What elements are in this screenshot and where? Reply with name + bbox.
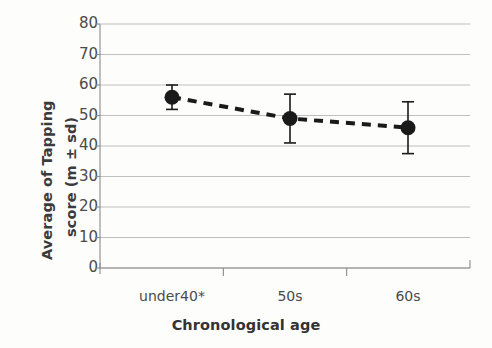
x-tick-label: under40*	[112, 288, 232, 304]
data-point-marker[interactable]	[165, 90, 180, 105]
x-tick-label: 50s	[230, 288, 350, 304]
x-axis-title: Chronological age	[0, 317, 492, 333]
data-point-marker[interactable]	[283, 111, 298, 126]
data-point-marker[interactable]	[401, 120, 416, 135]
chart-figure: Average of Tapping score (m ± sd) 010203…	[0, 0, 492, 348]
x-tick-label: 60s	[348, 288, 468, 304]
